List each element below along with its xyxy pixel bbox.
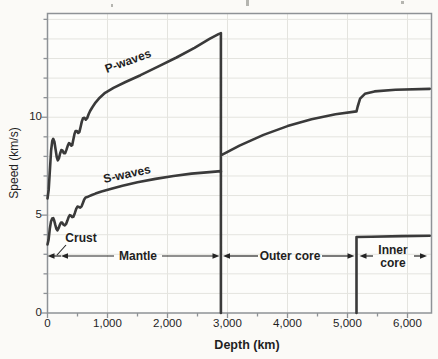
- x-tick-label: 0: [44, 317, 50, 329]
- y-tick-label: 5: [16, 208, 42, 220]
- crust-label: Crust: [65, 231, 96, 245]
- x-tick-label: 4,000: [273, 317, 302, 329]
- cropped-artifacts: [111, 0, 404, 7]
- seismic-wave-speed-figure: Speed (km/s) Depth (km) 01,0002,0003,000…: [0, 0, 438, 359]
- artifact-mark: [111, 4, 113, 7]
- y-axis-title: Speed (km/s): [7, 127, 21, 198]
- x-tick-label: 3,000: [213, 317, 242, 329]
- y-tick-label: 0: [16, 306, 42, 318]
- x-tick-label: 2,000: [153, 317, 182, 329]
- x-tick-label: 6,000: [393, 317, 422, 329]
- region-label-mantle: Mantle: [119, 249, 157, 263]
- x-tick-label: 1,000: [93, 317, 122, 329]
- chart-canvas: [0, 0, 438, 359]
- region-label-inner-core: Inner core: [378, 244, 407, 270]
- artifact-mark: [401, 1, 404, 4]
- artifact-mark: [246, 0, 249, 6]
- x-tick-label: 5,000: [333, 317, 362, 329]
- x-axis-title: Depth (km): [214, 338, 279, 352]
- region-label-outer-core: Outer core: [260, 249, 321, 263]
- y-tick-label: 10: [16, 110, 42, 122]
